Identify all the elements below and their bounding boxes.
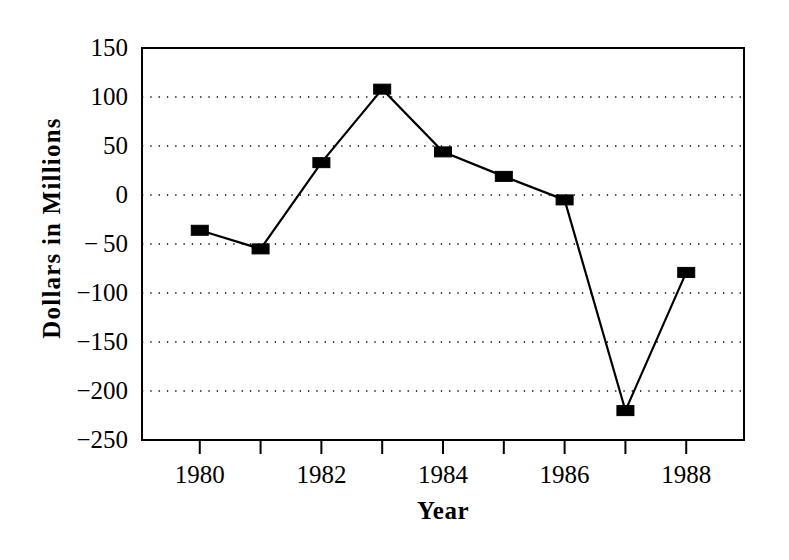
- line-plot: [0, 0, 789, 560]
- x-axis-ticks: [200, 440, 686, 454]
- data-markers: [191, 84, 694, 415]
- chart-figure: Dollars in Millions Year 150100500− 50−1…: [0, 0, 789, 560]
- data-line: [200, 89, 686, 410]
- axis-frame: [142, 48, 744, 440]
